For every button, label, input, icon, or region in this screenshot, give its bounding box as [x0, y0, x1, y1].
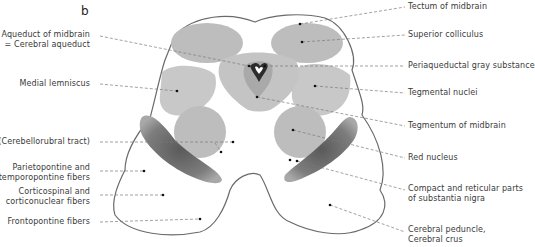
- label-red-nucleus: Red nucleus: [408, 153, 458, 163]
- label-tectum: Tectum of midbrain: [408, 2, 487, 12]
- panel-letter: b: [81, 4, 89, 18]
- label-parietopontine: Parietopontine and temporopontine fibers: [0, 163, 90, 182]
- label-periaqueductal: Periaqueductal gray substance: [408, 61, 535, 71]
- label-aqueduct-line1: Aqueduct of midbrain: [1, 30, 90, 40]
- label-substantia-nigra: Compact and reticular parts of substanti…: [408, 184, 523, 203]
- label-tegmentum: Tegmentum of midbrain: [408, 121, 506, 131]
- label-aqueduct: Aqueduct of midbrain = Cerebral aqueduct: [1, 30, 90, 49]
- label-cerebellorubral: (Cerebellorubral tract): [0, 137, 90, 147]
- label-frontopontine: Frontopontine fibers: [7, 217, 90, 227]
- label-cerebral-peduncle: Cerebral peduncle, Cerebral crus: [408, 225, 486, 244]
- label-medial-lemniscus: Medial lemniscus: [20, 79, 90, 89]
- label-aqueduct-line2: = Cerebral aqueduct: [1, 40, 90, 50]
- label-superior-colliculus: Superior colliculus: [408, 30, 483, 40]
- label-tegmental-nuclei: Tegmental nuclei: [408, 88, 478, 98]
- label-corticospinal: Corticospinal and corticonuclear fibers: [6, 187, 90, 206]
